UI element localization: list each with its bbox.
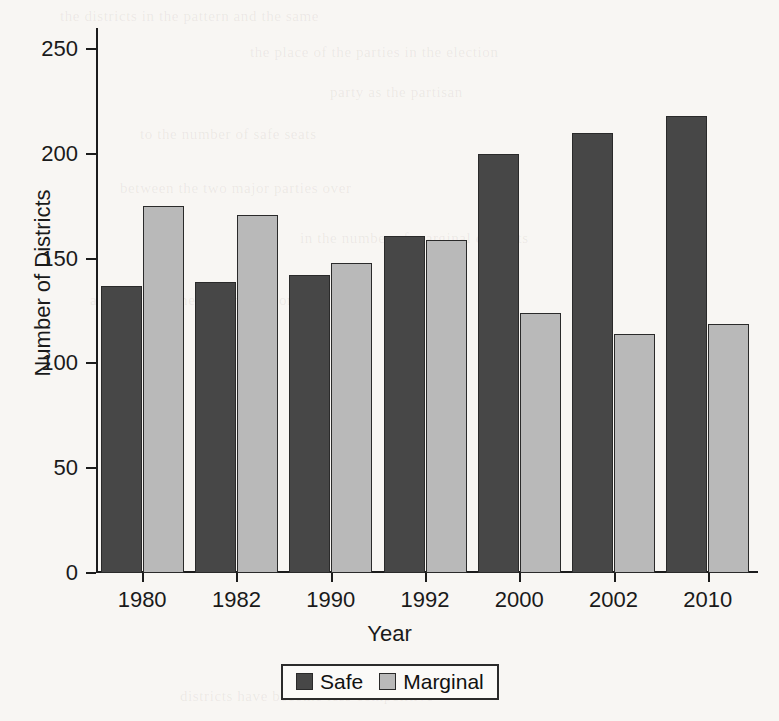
legend-label-marginal: Marginal [403, 671, 484, 692]
x-tick-label-1992: 1992 [401, 587, 450, 613]
legend: Safe Marginal [281, 664, 499, 700]
bar-marginal-2000 [520, 313, 561, 573]
bar-safe-2000 [478, 154, 519, 573]
bar-marginal-1992 [426, 240, 467, 573]
x-tick-label-1982: 1982 [212, 587, 261, 613]
y-tick [86, 48, 96, 50]
bar-safe-1982 [195, 282, 236, 573]
x-tick-label-1980: 1980 [118, 587, 167, 613]
bar-safe-1992 [384, 236, 425, 573]
x-tick [142, 573, 144, 582]
chart-page: the districts in the pattern and the sam… [0, 0, 779, 721]
y-tick [86, 572, 96, 574]
legend-label-safe: Safe [320, 671, 363, 692]
bar-safe-2010 [666, 116, 707, 573]
x-tick [236, 573, 238, 582]
y-axis-title: Number of Districts [30, 73, 56, 493]
x-tick-label-1990: 1990 [306, 587, 355, 613]
legend-entry-safe[interactable]: Safe [296, 671, 363, 692]
bar-marginal-2002 [614, 334, 655, 573]
ghost-text-line: the districts in the pattern and the sam… [60, 8, 319, 25]
bar-marginal-1980 [143, 206, 184, 573]
x-tick [425, 573, 427, 582]
bar-safe-2002 [572, 133, 613, 573]
plot-area [97, 28, 757, 573]
x-tick [708, 573, 710, 582]
y-tick [86, 153, 96, 155]
x-tick-label-2000: 2000 [495, 587, 544, 613]
y-tick-label: 250 [0, 36, 78, 62]
bar-marginal-1990 [331, 263, 372, 573]
x-tick-label-2002: 2002 [589, 587, 638, 613]
bar-safe-1990 [289, 275, 330, 573]
bar-safe-1980 [101, 286, 142, 573]
y-tick-label: 0 [0, 560, 78, 586]
y-tick [86, 258, 96, 260]
bar-marginal-2010 [708, 324, 749, 573]
x-tick [331, 573, 333, 582]
legend-swatch-marginal [379, 673, 396, 690]
x-tick-label-2010: 2010 [683, 587, 732, 613]
legend-swatch-safe [296, 673, 313, 690]
legend-entry-marginal[interactable]: Marginal [379, 671, 484, 692]
x-axis-title: Year [0, 621, 779, 647]
y-tick [86, 467, 96, 469]
x-tick [519, 573, 521, 582]
x-tick [614, 573, 616, 582]
bar-marginal-1982 [237, 215, 278, 573]
y-tick [86, 362, 96, 364]
